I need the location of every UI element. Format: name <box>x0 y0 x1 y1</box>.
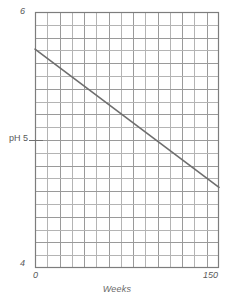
x-axis-label-min: 0 <box>33 271 38 280</box>
series-ph-line <box>35 49 219 187</box>
ph-vs-weeks-chart: 6 pH 5 4 0 150 Weeks <box>0 0 234 306</box>
series-layer <box>35 12 219 268</box>
y-axis-tick-ph5 <box>29 140 43 141</box>
plot-area <box>35 12 219 268</box>
x-axis-title: Weeks <box>0 284 234 294</box>
y-axis-label-ph5: pH 5 <box>0 134 28 143</box>
y-axis-label-max: 6 <box>20 7 25 16</box>
y-axis-label-min: 4 <box>20 259 25 268</box>
x-axis-label-max: 150 <box>203 271 218 280</box>
series-line-ph <box>35 49 219 187</box>
